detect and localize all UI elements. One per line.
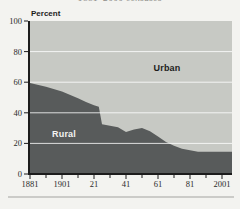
- x-tick-label: 1901: [54, 179, 71, 189]
- urban-area-label: Urban: [150, 63, 184, 73]
- x-tick-label: 2001: [214, 179, 231, 189]
- x-tick-label: 61: [154, 179, 163, 189]
- x-tick-label: 21: [90, 179, 99, 189]
- y-tick-label: 0: [18, 169, 22, 179]
- x-tick-label: 81: [186, 179, 195, 189]
- census-chart-figure: 1881–2000 censuses Percent 0204060801001…: [0, 0, 240, 209]
- urban-rural-area-chart: 02040608010018811901214161812001: [0, 0, 240, 209]
- x-axis-line: [28, 173, 232, 175]
- y-tick-label: 20: [14, 138, 23, 148]
- x-tick-label: 41: [122, 179, 131, 189]
- y-tick-label: 80: [14, 47, 23, 57]
- y-tick-label: 100: [9, 16, 22, 26]
- y-tick-label: 60: [14, 77, 23, 87]
- y-tick-label: 40: [14, 108, 23, 118]
- x-tick-label: 1881: [22, 179, 39, 189]
- rural-area-label: Rural: [47, 129, 81, 139]
- y-axis-line: [28, 21, 30, 175]
